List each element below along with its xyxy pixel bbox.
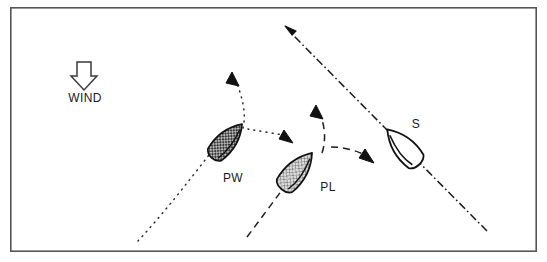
diagram-frame: [11, 8, 536, 251]
boat-pw-label: PW: [223, 171, 243, 185]
diagram-canvas: WIND: [0, 0, 547, 262]
boat-pl-label: PL: [320, 180, 335, 194]
wind-label: WIND: [68, 91, 102, 105]
sailing-diagram: WIND: [0, 0, 547, 262]
boat-s-label: S: [412, 117, 420, 131]
